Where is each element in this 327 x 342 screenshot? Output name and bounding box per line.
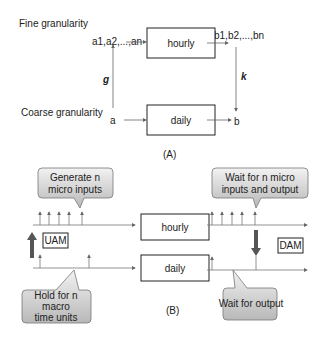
label-b: (B) <box>166 305 179 316</box>
diagram: Fine granularity Coarse granularity a1,a… <box>0 0 327 342</box>
callout-wait-micro-line2: inputs and output <box>222 184 299 195</box>
g-label: g <box>102 74 109 85</box>
fine-output-label: b1,b2,...,bn <box>214 30 264 41</box>
callout-hold-line2: macro <box>42 301 70 312</box>
callout-wait-output-text: Wait for output <box>219 298 284 309</box>
callout-wait-micro-line1: Wait for n micro <box>225 172 295 183</box>
hourly-label-b: hourly <box>161 222 188 233</box>
hourly-label-a: hourly <box>167 38 194 49</box>
label-a: (A) <box>163 149 176 160</box>
callout-wait-output <box>223 270 277 320</box>
coarse-input-label: a <box>110 115 116 126</box>
callout-hold-line3: time units <box>35 312 78 323</box>
coarse-output-label: b <box>234 116 240 127</box>
callout-hold-line1: Hold for n <box>34 290 77 301</box>
daily-label-a: daily <box>171 115 192 126</box>
dam-label: DAM <box>279 240 301 251</box>
coarse-granularity-label: Coarse granularity <box>21 107 103 118</box>
k-label: k <box>241 71 247 82</box>
fine-input-label: a1,a2,...,an <box>92 36 142 47</box>
callout-generate-line1: Generate n <box>50 172 100 183</box>
fine-granularity-label: Fine granularity <box>19 18 88 29</box>
daily-label-b: daily <box>165 263 186 274</box>
up-arrow-icon <box>27 232 37 258</box>
uam-label: UAM <box>44 235 66 246</box>
callout-generate-line2: micro inputs <box>48 184 102 195</box>
down-arrow-icon <box>251 230 261 256</box>
